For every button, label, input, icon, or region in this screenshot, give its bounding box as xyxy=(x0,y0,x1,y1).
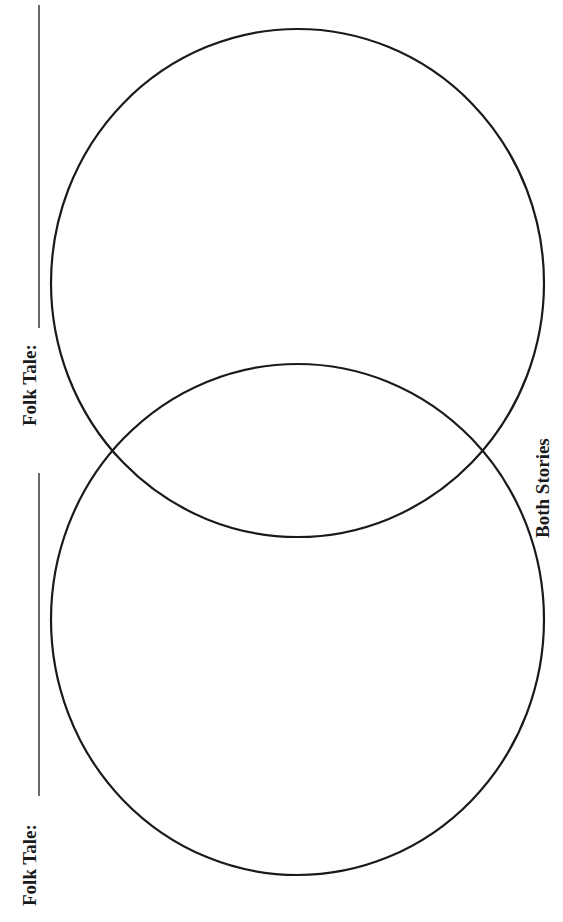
top-circle xyxy=(51,29,544,537)
bottom-circle xyxy=(51,364,544,875)
top-folk-tale-label: Folk Tale: xyxy=(19,344,41,426)
both-stories-label: Both Stories xyxy=(532,438,554,538)
venn-diagram xyxy=(0,0,563,922)
bottom-folk-tale-label: Folk Tale: xyxy=(19,824,41,906)
